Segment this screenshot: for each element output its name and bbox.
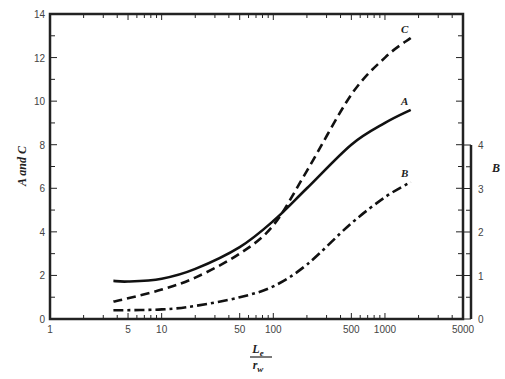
b-axis-tick-label: 3	[478, 184, 484, 195]
b-axis-tick-label: 4	[478, 140, 484, 151]
curve-labels: ACB	[400, 23, 409, 179]
curve-label-b: B	[400, 167, 408, 179]
curve-label-c: C	[401, 23, 409, 35]
x-axis-ticks: 15105010050010005000	[47, 14, 474, 335]
y-tick-label: 2	[39, 270, 45, 281]
x-tick-label: 50	[234, 324, 246, 335]
curve-label-a: A	[400, 95, 408, 107]
x-axis-title: Le rw	[250, 342, 272, 374]
x-title-numerator: L	[251, 342, 259, 356]
x-tick-label: 5	[125, 324, 131, 335]
curve-a	[113, 110, 410, 282]
curve-c	[113, 38, 410, 302]
x-tick-label: 1000	[374, 324, 397, 335]
y-tick-label: 0	[39, 314, 45, 325]
x-tick-label: 5000	[452, 324, 475, 335]
b-axis-tick-label: 0	[478, 314, 484, 325]
x-tick-label: 10	[156, 324, 168, 335]
x-title-den-sub: w	[257, 364, 264, 374]
y-axis-title: A and C	[15, 145, 29, 187]
y-tick-label: 4	[39, 227, 45, 238]
b-axis-tick-label: 1	[478, 271, 484, 282]
svg-text:rw: rw	[253, 358, 265, 374]
y-axis-ticks: 02468101214	[34, 9, 463, 325]
x-tick-label: 1	[47, 324, 53, 335]
y-tick-label: 6	[39, 183, 45, 194]
chart: 15105010050010005000 02468101214 01234 A…	[0, 0, 505, 379]
b-axis-tick-label: 2	[478, 227, 484, 238]
x-tick-label: 100	[265, 324, 282, 335]
y-tick-label: 8	[39, 140, 45, 151]
b-axis: 01234	[463, 140, 484, 325]
y-tick-label: 12	[34, 53, 46, 64]
svg-text:Le: Le	[251, 342, 263, 358]
y-tick-label: 10	[34, 96, 46, 107]
y2-axis-title: B	[491, 161, 500, 175]
curves	[113, 38, 410, 310]
x-tick-label: 500	[343, 324, 360, 335]
y-tick-label: 14	[34, 9, 46, 20]
